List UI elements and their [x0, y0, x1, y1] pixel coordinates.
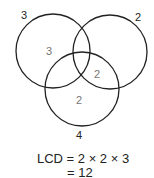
- bottom-circle-label: 4: [76, 130, 82, 141]
- lcd-equation-line1: LCD = 2 × 2 × 3: [37, 152, 129, 165]
- right-bottom-overlap-value: 2: [94, 69, 100, 80]
- lcd-equation-line2: = 12: [67, 166, 93, 178]
- left-only-region-value: 3: [46, 46, 52, 57]
- right-circle-label: 2: [135, 12, 141, 23]
- left-circle-label: 3: [21, 10, 27, 21]
- bottom-only-region-value: 2: [76, 95, 82, 106]
- left-circle: [16, 14, 90, 88]
